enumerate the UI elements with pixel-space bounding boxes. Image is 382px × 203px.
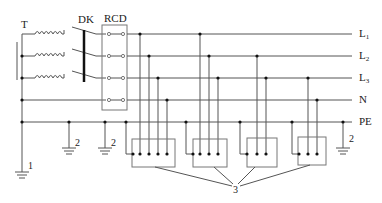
- bus-label-PE: PE: [359, 116, 372, 127]
- load-drops: [126, 34, 317, 154]
- rcd-box: [102, 25, 127, 110]
- wiring-svg: [0, 0, 382, 203]
- rcd-terminals: [107, 32, 124, 101]
- circuit-diagram: T DK RCD L1 L2 L3 N PE 1 2 2 2 3: [0, 0, 382, 203]
- bus-label-L2: L2: [359, 50, 369, 63]
- bus-label-L1: L1: [359, 28, 369, 41]
- earth-label-1: 1: [28, 161, 33, 171]
- switch-label: DK: [78, 14, 94, 25]
- equipment-label-3: 3: [233, 185, 238, 195]
- switch-blades: [72, 27, 106, 78]
- bus-label-N: N: [359, 94, 367, 105]
- load-box-1: [132, 139, 175, 167]
- earth-label-2b: 2: [111, 138, 116, 148]
- leader-lines: [155, 165, 310, 186]
- transformer-label: T: [21, 19, 28, 30]
- transformer-coils: [22, 30, 64, 78]
- load-box-3: [247, 138, 277, 167]
- bus-label-L3: L3: [359, 72, 369, 85]
- earth-label-2c: 2: [349, 134, 354, 144]
- load-box-4: [298, 137, 326, 165]
- earth-label-2a: 2: [75, 138, 80, 148]
- rcd-label: RCD: [104, 13, 127, 24]
